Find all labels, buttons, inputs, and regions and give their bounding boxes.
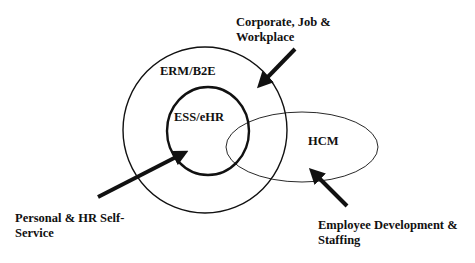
corporate-callout-line1: Corporate, Job & — [236, 15, 331, 30]
personal-callout-line2: Service — [15, 226, 54, 241]
employee-arrow — [314, 173, 347, 206]
corporate-arrow — [262, 49, 295, 83]
erm-b2e-label: ERM/B2E — [160, 64, 216, 79]
corporate-callout-line2: Workplace — [236, 30, 294, 45]
ess-ehr-label: ESS/eHR — [174, 110, 224, 125]
ess-ehr-circle — [167, 87, 249, 175]
personal-arrow — [98, 154, 182, 197]
hcm-label: HCM — [308, 134, 339, 149]
personal-callout-line1: Personal & HR Self- — [15, 211, 124, 226]
employee-callout-line2: Staffing — [318, 233, 360, 248]
employee-callout-line1: Employee Development & — [318, 218, 458, 233]
